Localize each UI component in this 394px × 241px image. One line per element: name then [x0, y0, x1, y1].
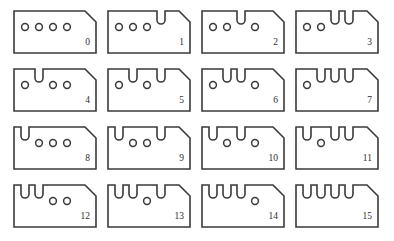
tag-label: 1 — [179, 37, 184, 47]
binary-tag-card: 0 — [13, 10, 97, 54]
tag-outline — [14, 69, 96, 111]
tag-hole — [252, 24, 259, 31]
tag-hole — [130, 24, 137, 31]
binary-tag-card: 14 — [201, 184, 285, 228]
tag-hole — [252, 198, 259, 205]
binary-tag-card: 12 — [13, 184, 97, 228]
tag-label: 8 — [85, 153, 90, 163]
tag-hole — [22, 82, 29, 89]
tag-label: 0 — [85, 37, 90, 47]
binary-tag-card: 5 — [107, 68, 191, 112]
tag-hole — [304, 82, 311, 89]
binary-tag-card: 9 — [107, 126, 191, 170]
tag-hole — [210, 24, 217, 31]
tag-hole — [224, 140, 231, 147]
tag-hole — [22, 24, 29, 31]
tag-hole — [144, 24, 151, 31]
tag-label: 2 — [273, 37, 278, 47]
tag-label: 14 — [269, 211, 279, 221]
tag-hole — [130, 140, 137, 147]
tag-hole — [36, 24, 43, 31]
tag-label: 7 — [367, 95, 372, 105]
binary-tag-card: 3 — [295, 10, 379, 54]
tag-label: 5 — [179, 95, 184, 105]
tag-hole — [252, 140, 259, 147]
tag-hole — [50, 140, 57, 147]
binary-tag-card: 13 — [107, 184, 191, 228]
tag-label: 12 — [81, 211, 91, 221]
tag-hole — [64, 82, 71, 89]
tag-hole — [144, 140, 151, 147]
binary-tag-card: 7 — [295, 68, 379, 112]
binary-tag-grid: 0123456789101112131415 — [0, 0, 394, 241]
tag-hole — [50, 198, 57, 205]
binary-tag-card: 8 — [13, 126, 97, 170]
binary-tag-card: 10 — [201, 126, 285, 170]
tag-outline — [14, 11, 96, 53]
binary-tag-card: 2 — [201, 10, 285, 54]
tag-hole — [64, 198, 71, 205]
tag-outline — [296, 69, 378, 111]
tag-outline — [202, 11, 284, 53]
tag-outline — [296, 11, 378, 53]
tag-hole — [64, 140, 71, 147]
tag-hole — [50, 24, 57, 31]
binary-tag-card: 4 — [13, 68, 97, 112]
binary-tag-card: 6 — [201, 68, 285, 112]
tag-hole — [64, 24, 71, 31]
tag-label: 4 — [85, 95, 90, 105]
tag-label: 6 — [273, 95, 278, 105]
tag-hole — [144, 198, 151, 205]
binary-tag-card: 15 — [295, 184, 379, 228]
tag-label: 9 — [179, 153, 184, 163]
tag-label: 13 — [175, 211, 185, 221]
tag-outline — [108, 69, 190, 111]
tag-hole — [304, 24, 311, 31]
tag-hole — [116, 82, 123, 89]
tag-hole — [50, 82, 57, 89]
tag-hole — [116, 24, 123, 31]
tag-label: 10 — [269, 153, 279, 163]
tag-hole — [210, 82, 217, 89]
tag-hole — [36, 140, 43, 147]
tag-outline — [14, 127, 96, 169]
tag-outline — [202, 69, 284, 111]
binary-tag-card: 1 — [107, 10, 191, 54]
tag-outline — [108, 11, 190, 53]
tag-hole — [318, 24, 325, 31]
tag-hole — [224, 24, 231, 31]
tag-label: 11 — [363, 153, 372, 163]
tag-label: 3 — [367, 37, 372, 47]
tag-hole — [252, 82, 259, 89]
tag-label: 15 — [363, 211, 373, 221]
binary-tag-card: 11 — [295, 126, 379, 170]
tag-hole — [318, 140, 325, 147]
tag-outline — [108, 127, 190, 169]
tag-hole — [144, 82, 151, 89]
